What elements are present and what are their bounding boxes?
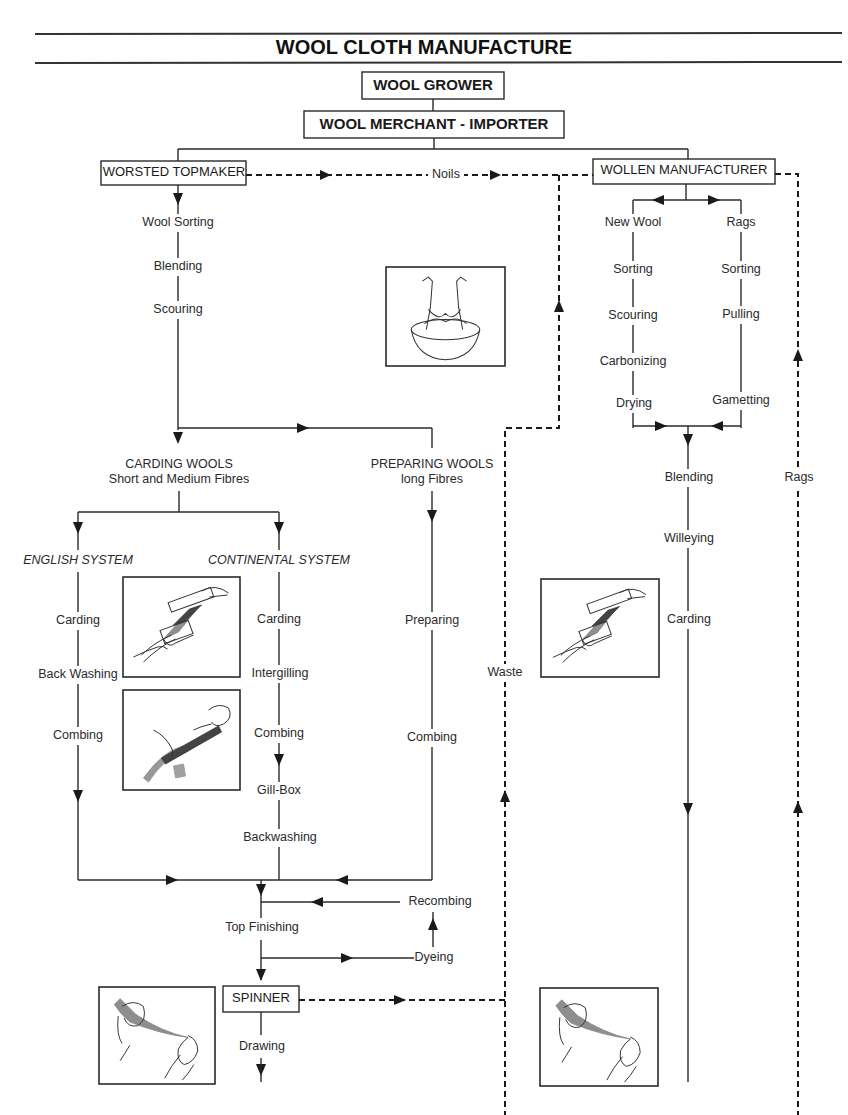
new-wool-step-carbonizing: Carbonizing bbox=[600, 354, 667, 368]
arrow-down-icon bbox=[274, 754, 284, 766]
arrow-down-icon bbox=[427, 510, 437, 522]
new-wool-step-scouring: Scouring bbox=[608, 308, 657, 322]
continental-step-combing: Combing bbox=[254, 726, 304, 740]
new-wool-step-sorting: Sorting bbox=[613, 262, 653, 276]
arrow-left-icon bbox=[336, 875, 348, 885]
preparing-wools-subtitle: long Fibres bbox=[401, 472, 463, 486]
rags-step-pulling: Pulling bbox=[722, 307, 760, 321]
step-scouring: Scouring bbox=[153, 302, 202, 316]
rags-return-line bbox=[775, 174, 798, 1115]
scouring-illustration bbox=[386, 267, 505, 366]
arrow-up-icon bbox=[793, 349, 803, 361]
new-wool-title: New Wool bbox=[605, 215, 662, 229]
arrow-right-icon bbox=[394, 995, 406, 1005]
continental-step-gill-box: Gill-Box bbox=[257, 783, 302, 797]
arrow-left-icon bbox=[652, 195, 664, 205]
arrow-down-icon bbox=[73, 790, 83, 802]
continental-step-carding: Carding bbox=[257, 612, 301, 626]
arrow-down-icon bbox=[683, 434, 693, 446]
english-step-back-washing: Back Washing bbox=[38, 667, 117, 681]
arrow-up-icon bbox=[428, 918, 438, 930]
english-system-title: ENGLISH SYSTEM bbox=[23, 553, 133, 567]
woollen-step-carding: Carding bbox=[667, 612, 711, 626]
continental-step-intergilling: Intergilling bbox=[252, 666, 309, 680]
arrow-right-icon bbox=[297, 423, 309, 433]
arrow-down-icon bbox=[256, 884, 266, 896]
worsted-topmaker-label: WORSTED TOPMAKER bbox=[103, 164, 246, 179]
arrow-left-icon bbox=[711, 421, 723, 431]
arrow-right-icon bbox=[341, 953, 353, 963]
title-rule-bottom bbox=[35, 62, 842, 63]
spinner-label: SPINNER bbox=[232, 990, 290, 1005]
arrow-down-icon bbox=[173, 193, 183, 205]
step-wool-sorting: Wool Sorting bbox=[142, 215, 213, 229]
arrow-up-icon bbox=[500, 790, 510, 802]
preparing-wools-title: PREPARING WOOLS bbox=[371, 457, 494, 471]
carding-wools-subtitle: Short and Medium Fibres bbox=[109, 472, 249, 486]
arrow-right-icon bbox=[708, 195, 720, 205]
arrow-left-icon bbox=[311, 897, 323, 907]
arrow-down-icon bbox=[73, 522, 83, 534]
rags-step-sorting: Sorting bbox=[721, 262, 761, 276]
arrow-down-icon bbox=[683, 803, 693, 815]
preparing-step-preparing: Preparing bbox=[405, 613, 459, 627]
arrow-right-icon bbox=[655, 421, 667, 431]
diagram-title: WOOL CLOTH MANUFACTURE bbox=[276, 36, 572, 58]
woollen-step-willeying: Willeying bbox=[664, 531, 714, 545]
continental-step-backwashing: Backwashing bbox=[243, 830, 317, 844]
continental-system-title: CONTINENTAL SYSTEM bbox=[208, 553, 351, 567]
drawing-illustration-left bbox=[99, 987, 215, 1084]
title-rule-top bbox=[35, 33, 842, 34]
woollen-step-blending: Blending bbox=[665, 470, 714, 484]
rags-step-gametting: Gametting bbox=[712, 393, 770, 407]
dyeing-label: Dyeing bbox=[415, 950, 454, 964]
step-blending: Blending bbox=[154, 259, 203, 273]
arrow-down-icon bbox=[256, 969, 266, 981]
english-step-combing: Combing bbox=[53, 728, 103, 742]
rags-return-label: Rags bbox=[784, 470, 813, 484]
preparing-step-combing: Combing bbox=[407, 730, 457, 744]
arrow-up-icon bbox=[554, 300, 564, 312]
arrow-up-icon bbox=[793, 801, 803, 813]
wool-grower-label: WOOL GROWER bbox=[373, 76, 493, 93]
arrow-down-icon bbox=[274, 522, 284, 534]
arrow-right-icon bbox=[320, 170, 331, 180]
waste-label: Waste bbox=[488, 665, 523, 679]
rags-title: Rags bbox=[726, 215, 755, 229]
wollen-manufacturer-label: WOLLEN MANUFACTURER bbox=[601, 162, 768, 177]
english-step-carding: Carding bbox=[56, 613, 100, 627]
recombing-label: Recombing bbox=[408, 894, 471, 908]
noils-label: Noils bbox=[432, 167, 460, 181]
arrow-right-icon bbox=[490, 170, 501, 180]
spinner-step-drawing: Drawing bbox=[239, 1039, 285, 1053]
arrow-right-icon bbox=[166, 875, 178, 885]
arrow-down-icon bbox=[173, 432, 183, 444]
carding-wools-title: CARDING WOOLS bbox=[125, 457, 233, 471]
drawing-illustration-right bbox=[540, 988, 658, 1086]
new-wool-step-drying: Drying bbox=[616, 396, 652, 410]
wool-merchant-label: WOOL MERCHANT - IMPORTER bbox=[320, 115, 549, 132]
top-finishing-label: Top Finishing bbox=[225, 920, 299, 934]
wool-cloth-flowchart: WOOL CLOTH MANUFACTURE WOOL GROWER WOOL … bbox=[0, 0, 848, 1115]
